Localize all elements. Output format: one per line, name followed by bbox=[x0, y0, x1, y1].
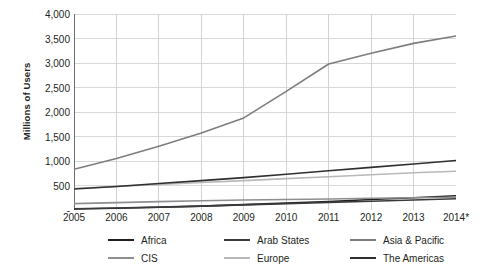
legend-item[interactable]: Europe bbox=[224, 253, 350, 264]
legend-item[interactable]: Africa bbox=[108, 235, 224, 246]
gridlines bbox=[74, 14, 456, 210]
y-tick-label: 3,000 bbox=[24, 58, 70, 69]
x-tick-label: 2007 bbox=[148, 212, 170, 223]
x-axis-tick-labels: 2005200620072008200920102011201220132014… bbox=[0, 212, 480, 230]
legend-label: Asia & Pacific bbox=[383, 235, 444, 246]
legend-row-2: CISEuropeThe Americas bbox=[108, 249, 468, 267]
y-tick-label: 1,000 bbox=[24, 156, 70, 167]
plot-svg bbox=[74, 14, 456, 210]
x-tick-label: 2014* bbox=[443, 212, 469, 223]
y-tick-label: 2,000 bbox=[24, 107, 70, 118]
plot-area bbox=[74, 14, 456, 210]
legend-swatch bbox=[350, 257, 376, 259]
legend-swatch bbox=[350, 239, 376, 241]
x-tick-label: 2013 bbox=[402, 212, 424, 223]
data-series-group bbox=[74, 36, 456, 209]
legend-item[interactable]: Arab States bbox=[224, 235, 350, 246]
y-tick-label: 3,500 bbox=[24, 33, 70, 44]
y-tick-label: 1,500 bbox=[24, 131, 70, 142]
chart-legend: AfricaArab StatesAsia & Pacific CISEurop… bbox=[108, 231, 468, 269]
legend-label: Arab States bbox=[257, 235, 309, 246]
legend-swatch bbox=[108, 257, 134, 259]
legend-label: CIS bbox=[141, 253, 158, 264]
x-tick-label: 2010 bbox=[275, 212, 297, 223]
legend-item[interactable]: Asia & Pacific bbox=[350, 235, 468, 246]
legend-label: Europe bbox=[257, 253, 289, 264]
x-tick-label: 2005 bbox=[63, 212, 85, 223]
legend-label: Africa bbox=[141, 235, 167, 246]
x-tick-label: 2006 bbox=[105, 212, 127, 223]
legend-label: The Americas bbox=[383, 253, 444, 264]
x-tick-label: 2009 bbox=[233, 212, 255, 223]
legend-swatch bbox=[224, 257, 250, 259]
y-tick-label: 2,500 bbox=[24, 82, 70, 93]
legend-row-1: AfricaArab StatesAsia & Pacific bbox=[108, 231, 468, 249]
x-tick-label: 2008 bbox=[190, 212, 212, 223]
legend-swatch bbox=[224, 239, 250, 241]
series-line bbox=[74, 161, 456, 189]
series-line bbox=[74, 36, 456, 169]
legend-item[interactable]: The Americas bbox=[350, 253, 468, 264]
legend-swatch bbox=[108, 239, 134, 241]
y-tick-label: 500 bbox=[24, 180, 70, 191]
legend-item[interactable]: CIS bbox=[108, 253, 224, 264]
y-axis-tick-labels: -5001,0001,5002,0002,5003,0003,5004,000 bbox=[24, 0, 70, 272]
x-tick-label: 2011 bbox=[318, 212, 340, 223]
line-chart: Millions of Users -5001,0001,5002,0002,5… bbox=[0, 0, 480, 272]
y-tick-label: 4,000 bbox=[24, 9, 70, 20]
x-tick-label: 2012 bbox=[360, 212, 382, 223]
